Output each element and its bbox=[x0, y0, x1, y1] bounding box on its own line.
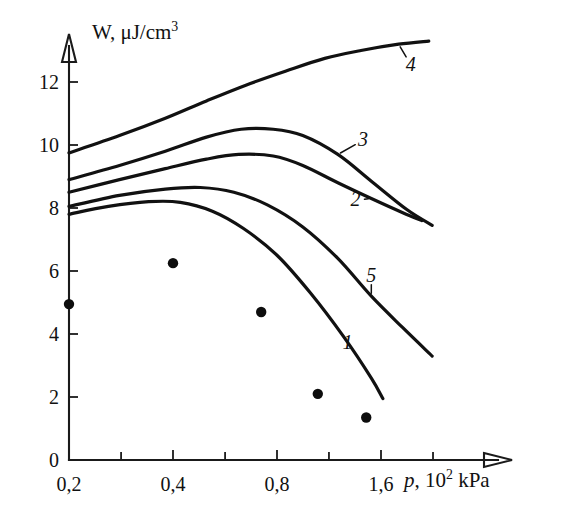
x-axis-ticks bbox=[121, 450, 433, 460]
curve-label-2: 2 bbox=[351, 189, 361, 209]
axes-group bbox=[62, 34, 512, 467]
curve-3 bbox=[69, 128, 432, 225]
y-tick-label-10: 10 bbox=[7, 135, 59, 155]
curve-4 bbox=[69, 41, 429, 153]
x-tick-label-1,6: 1,6 bbox=[341, 474, 421, 494]
y-tick-label-8: 8 bbox=[7, 198, 59, 218]
x-tick-label-0,2: 0,2 bbox=[29, 474, 109, 494]
y-axis-title: W, μJ/cm3 bbox=[92, 22, 178, 43]
x-tick-label-0,8: 0,8 bbox=[237, 474, 317, 494]
chart-figure: W, μJ/cm3 p, 102 kPa 0246810120,20,40,81… bbox=[0, 0, 570, 516]
y-tick-label-12: 12 bbox=[7, 72, 59, 92]
y-axis-ticks bbox=[69, 82, 78, 397]
y-tick-label-0: 0 bbox=[7, 450, 59, 470]
curve-label-3: 3 bbox=[358, 129, 368, 149]
y-tick-label-4: 4 bbox=[7, 324, 59, 344]
curve-label-4: 4 bbox=[406, 54, 416, 74]
curve-5 bbox=[69, 187, 432, 356]
data-point-3 bbox=[256, 307, 266, 317]
curve-label-1: 1 bbox=[343, 332, 353, 352]
y-tick-label-2: 2 bbox=[7, 387, 59, 407]
curve-paths-group bbox=[69, 41, 432, 399]
x-tick-label-0,4: 0,4 bbox=[133, 474, 213, 494]
data-point-4 bbox=[313, 389, 323, 399]
data-point-1 bbox=[64, 299, 74, 309]
y-tick-label-6: 6 bbox=[7, 261, 59, 281]
curve-leader-3 bbox=[340, 145, 355, 153]
data-point-5 bbox=[361, 412, 371, 422]
chart-canvas bbox=[0, 0, 570, 516]
curve-label-5: 5 bbox=[366, 265, 376, 285]
data-point-2 bbox=[168, 258, 178, 268]
scatter-points-group bbox=[64, 258, 372, 423]
curve-1 bbox=[69, 201, 383, 398]
